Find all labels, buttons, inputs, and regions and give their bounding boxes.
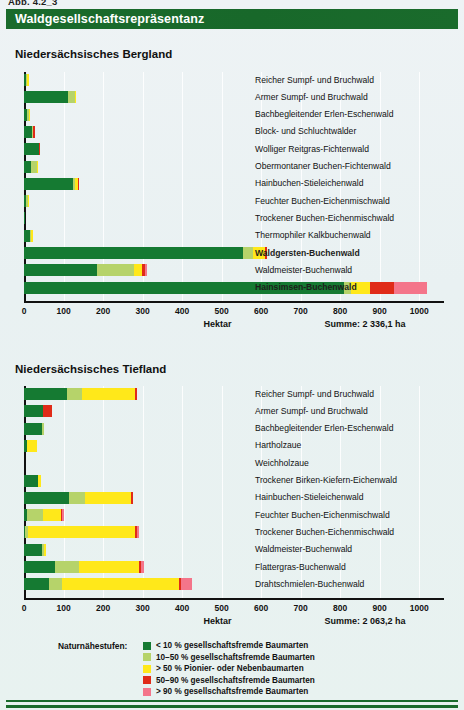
bar-segment	[24, 143, 39, 155]
bar-segment	[24, 423, 42, 435]
gridline	[380, 72, 381, 301]
bar-segment	[141, 561, 144, 573]
footer-rule-top	[6, 700, 458, 702]
legend-label: 50–90 % gesellschaftsfremde Baumarten	[156, 676, 315, 685]
x-axis-tick-label: 900	[373, 306, 387, 316]
bar-category-label: Obermontaner Buchen-Fichtenwald	[255, 160, 391, 173]
bar-segment	[97, 264, 134, 276]
bar-row	[24, 561, 144, 573]
legend-swatch-n4	[143, 676, 151, 684]
bar-segment	[131, 492, 133, 504]
x-axis-tick-label: 0	[22, 603, 27, 613]
bar-category-label: Bachbegleitender Erlen-Eschenwald	[255, 422, 394, 435]
figure-title-bar: Waldgesellschaftsrepräsentanz	[6, 9, 458, 29]
x-axis-tick-label: 900	[373, 603, 387, 613]
bar-row	[24, 74, 29, 86]
x-axis-tick-label: 200	[96, 603, 110, 613]
figure-page: Abb. 4.2_3 Waldgesellschaftsrepräsentanz…	[0, 0, 464, 710]
bar-row	[24, 161, 38, 173]
x-axis-tick-label: 0	[22, 306, 27, 316]
bar-category-label: Flattergras-Buchenwald	[255, 561, 346, 574]
bar-row	[24, 247, 267, 259]
bar-category-label: Block- und Schluchtwälder	[255, 125, 356, 138]
bar-segment	[135, 388, 137, 400]
bar-segment	[43, 405, 52, 417]
bar-row	[24, 91, 76, 103]
legend-item: < 10 % gesellschaftsfremde Baumarten	[143, 640, 315, 651]
bar-segment	[24, 405, 43, 417]
bar-category-label: Waldgersten-Buchenwald	[255, 247, 360, 260]
x-axis-tick-label: 1000	[410, 306, 429, 316]
legend: Naturnähestufen: < 10 % gesellschaftsfre…	[0, 638, 464, 700]
bar-segment	[82, 388, 134, 400]
bar-segment	[24, 126, 32, 138]
bar-category-label: Armer Sumpf- und Bruchwald	[255, 91, 368, 104]
bar-segment	[49, 578, 62, 590]
legend-title: Naturnähestufen:	[58, 641, 127, 651]
bar-segment	[27, 509, 44, 521]
bar-segment	[24, 475, 38, 487]
gridline	[419, 72, 420, 301]
bar-row	[24, 282, 427, 294]
bar-category-label: Hainsimsen-Buchenwald	[255, 281, 357, 294]
bar-segment	[37, 161, 38, 173]
sum-label: Summe: 2 063,2 ha	[324, 616, 405, 626]
chart-tiefland: Reicher Sumpf- und BruchwaldArmer Sumpf-…	[0, 386, 464, 626]
bar-segment	[24, 561, 55, 573]
bar-segment	[42, 423, 44, 435]
gridline	[380, 386, 381, 598]
bar-segment	[370, 282, 394, 294]
x-axis-tick-label: 300	[135, 603, 149, 613]
legend-item: 50–90 % gesellschaftsfremde Baumarten	[143, 675, 315, 686]
sum-label: Summe: 2 336,1 ha	[324, 319, 405, 329]
bar-segment	[24, 161, 31, 173]
x-axis-tick-label: 800	[333, 603, 347, 613]
bar-segment	[31, 230, 32, 242]
x-axis-tick-label: 400	[175, 306, 189, 316]
bar-category-label: Hainbuchen-Stieleichenwald	[255, 491, 363, 504]
bar-row	[24, 230, 33, 242]
bar-row	[24, 109, 30, 121]
x-axis-tick-label: 600	[254, 306, 268, 316]
bar-row	[24, 143, 40, 155]
bar-row	[24, 264, 147, 276]
bar-row	[24, 388, 137, 400]
x-axis-tick-label: 100	[56, 306, 70, 316]
x-axis	[24, 301, 444, 303]
chart-bergland: Reicher Sumpf- und BruchwaldArmer Sumpf-…	[0, 72, 464, 312]
bar-segment	[24, 578, 49, 590]
figure-caption: Abb. 4.2_3	[8, 0, 58, 7]
bar-row	[24, 475, 41, 487]
x-axis-tick-label: 600	[254, 603, 268, 613]
legend-label: < 10 % gesellschaftsfremde Baumarten	[156, 641, 308, 650]
bar-category-label: Waldmeister-Buchenwald	[255, 543, 352, 556]
bar-category-label: Reicher Sumpf- und Bruchwald	[255, 388, 374, 401]
bar-segment	[33, 126, 34, 138]
bar-segment	[78, 178, 79, 190]
bar-row	[24, 526, 139, 538]
legend-label: 10–50 % gesellschaftsfremde Baumarten	[156, 653, 315, 662]
gridline	[419, 386, 420, 598]
bar-segment	[394, 282, 427, 294]
bar-category-label: Trockener Buchen-Eichenmischwald	[255, 212, 394, 225]
bar-segment	[24, 178, 73, 190]
bar-segment	[44, 544, 47, 556]
bar-category-label: Armer Sumpf- und Bruchwald	[255, 405, 368, 418]
bar-row	[24, 212, 25, 224]
legend-swatch-n5	[143, 688, 151, 696]
legend-item: > 90 % gesellschaftsfremde Baumarten	[143, 686, 315, 697]
x-axis-tick-label: 800	[333, 306, 347, 316]
bar-category-label: Trockener Buchen-Eichenmischwald	[255, 526, 394, 539]
footer-rule-bottom	[6, 705, 458, 708]
bar-segment	[28, 526, 136, 538]
legend-swatch-n2	[143, 653, 151, 661]
bar-row	[24, 492, 133, 504]
bar-row	[24, 178, 79, 190]
bar-segment	[24, 212, 25, 224]
gridline	[222, 386, 223, 598]
bar-segment	[24, 247, 243, 259]
x-axis	[24, 598, 444, 600]
section-title-tiefland: Niedersächsisches Tiefland	[15, 363, 166, 375]
bar-row	[24, 544, 46, 556]
legend-label: > 50 % Pionier- oder Nebenbaumarten	[156, 664, 304, 673]
